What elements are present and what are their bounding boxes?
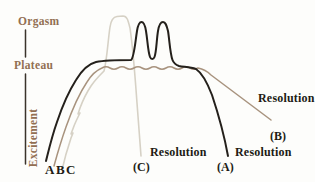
orgasm-phase-label: Orgasm: [18, 15, 60, 28]
curve-a-resolution-label: Resolution: [235, 145, 292, 159]
excitement-phase-label: Excitement: [27, 109, 39, 168]
diagram-canvas: Orgasm Plateau Excitement ABC Resolution…: [0, 0, 315, 182]
plateau-phase-label: Plateau: [14, 59, 53, 71]
curve-c-end-label: (C): [133, 160, 150, 174]
curve-start-group-label: ABC: [45, 162, 77, 177]
curve-b-end-label: (B): [270, 129, 286, 143]
curve-b-resolution-label: Resolution: [258, 91, 315, 105]
curve-c-resolution-label: Resolution: [150, 145, 207, 159]
curve-a-end-label: (A): [217, 160, 234, 174]
response-cycle-diagram: Orgasm Plateau Excitement ABC Resolution…: [0, 0, 315, 182]
